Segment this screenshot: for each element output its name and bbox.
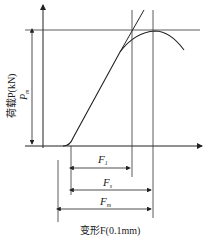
f1-label: F1	[97, 153, 108, 166]
pm-label: Pm	[18, 89, 30, 101]
fs-label: Fs	[102, 176, 113, 189]
load-deformation-diagram: F1 Fs Fm 变形F(0.1mm) 荷载P(kN) Pm	[0, 0, 205, 242]
fm-label: Fm	[99, 195, 112, 208]
x-axis-label: 变形F(0.1mm)	[80, 224, 140, 237]
load-curve	[63, 31, 184, 146]
y-axis-label: 荷载P(kN)	[6, 74, 18, 118]
